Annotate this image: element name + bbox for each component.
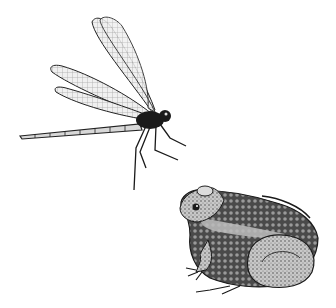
frog-eye xyxy=(193,204,200,211)
dragonfly-head xyxy=(159,110,171,122)
drawing xyxy=(0,0,336,308)
dragonfly-abdomen xyxy=(20,124,142,139)
illustration: Pen-and-ink illustration of a dragonfly … xyxy=(0,0,336,308)
dragonfly-legs xyxy=(134,124,186,190)
frog-eye-bump xyxy=(197,186,213,196)
frog-hind-foot xyxy=(196,286,240,294)
frog-hind-leg xyxy=(248,235,314,287)
dragonfly xyxy=(20,17,186,190)
frog xyxy=(180,186,318,294)
